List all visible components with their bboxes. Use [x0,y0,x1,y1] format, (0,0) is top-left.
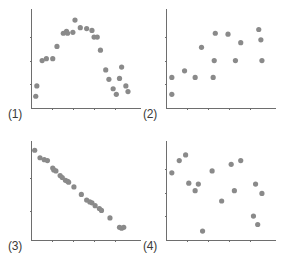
data-point [71,184,76,189]
data-point [232,188,237,193]
data-point [225,32,230,37]
panel-1-plot [30,8,142,110]
data-point [169,75,174,80]
data-point [98,48,103,53]
panel-3-points [32,148,126,231]
data-point [253,181,258,186]
data-point [111,86,116,91]
data-point [219,198,224,203]
data-point [78,25,83,30]
data-point [238,40,243,45]
data-point [238,158,243,163]
data-point [193,188,198,193]
data-point [34,83,39,88]
data-point [93,203,98,208]
panel-4-points [169,152,264,233]
scatterplot-figure: (1)(2)(3)(4) [0,0,287,263]
data-point [169,92,174,97]
data-point [123,83,128,88]
data-point [114,92,119,97]
panel-2-label: (2) [143,108,157,120]
data-point [212,58,217,63]
data-point [53,168,58,173]
data-point [177,158,182,163]
data-point [200,228,205,233]
data-point [169,170,174,175]
data-point [66,180,71,185]
data-point [125,89,130,94]
data-point [70,30,75,35]
data-point [210,168,215,173]
data-point [106,77,111,82]
data-point [119,65,124,70]
data-point [95,34,100,39]
data-point [251,213,256,218]
data-point [54,44,59,49]
panel-4-label: (4) [143,240,157,252]
data-point [50,56,55,61]
data-point [79,192,84,197]
panel-1 [30,8,142,110]
data-point [199,45,204,50]
data-point [99,208,104,213]
panel-1-label: (1) [8,108,22,120]
panel-4 [165,140,277,242]
data-point [211,75,216,80]
data-point [72,18,77,23]
data-point [259,58,264,63]
data-point [186,181,191,186]
data-point [117,76,122,81]
panel-1-points [33,18,130,99]
panel-3-label: (3) [8,240,22,252]
data-point [183,152,188,157]
data-point [45,158,50,163]
data-point [33,94,38,99]
data-point [107,215,112,220]
panel-3 [30,140,142,242]
panel-3-plot [30,140,142,242]
data-point [44,56,49,61]
data-point [196,181,201,186]
data-point [193,75,198,80]
data-point [213,31,218,36]
data-point [182,68,187,73]
panel-2-plot [165,8,277,110]
data-point [89,28,94,33]
data-point [84,26,89,31]
data-point [65,31,70,36]
data-point [32,148,37,153]
data-point [258,37,263,42]
data-point [233,58,238,63]
data-point [255,222,260,227]
panel-4-plot [165,140,277,242]
data-point [103,67,108,72]
panel-2-points [169,27,264,97]
panel-2 [165,8,277,110]
data-point [229,162,234,167]
data-point [121,225,126,230]
data-point [256,27,261,32]
data-point [259,191,264,196]
